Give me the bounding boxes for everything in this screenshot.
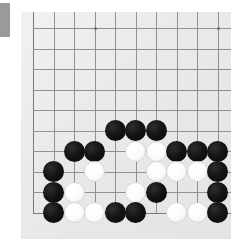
side-tab[interactable] — [0, 3, 10, 37]
go-board-photo[interactable] — [21, 12, 231, 239]
board-paper-texture — [21, 12, 231, 239]
screenshot-root — [0, 0, 245, 251]
